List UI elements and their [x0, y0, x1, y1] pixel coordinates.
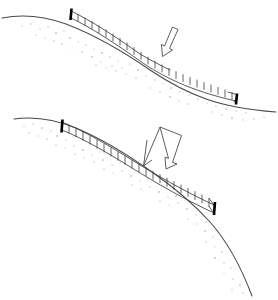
upper-right-end-marker	[236, 94, 237, 105]
lower-slope-panel	[14, 118, 252, 296]
upper-annotation-arrow	[162, 27, 179, 57]
lower-ladder-rungs	[62, 122, 209, 206]
upper-slope-line	[2, 16, 276, 112]
lower-left-end-marker	[62, 120, 63, 133]
upper-reinforcement-ladder	[71, 11, 238, 102]
lower-ladder-upper-rail	[62, 122, 214, 205]
lower-ladder-lower-rail	[62, 130, 214, 213]
upper-soil-stipple	[21, 23, 265, 120]
lower-slope-line	[14, 118, 252, 296]
slope-diagram-figure: Slope face reinforcement profiles	[0, 0, 278, 300]
upper-slope-panel	[2, 9, 276, 121]
diagram-canvas	[0, 0, 278, 300]
upper-left-end-marker	[71, 9, 72, 21]
lower-annotation-arrow	[144, 127, 182, 169]
lower-right-end-marker	[214, 202, 215, 215]
lower-reinforcement-ladder	[62, 122, 214, 213]
